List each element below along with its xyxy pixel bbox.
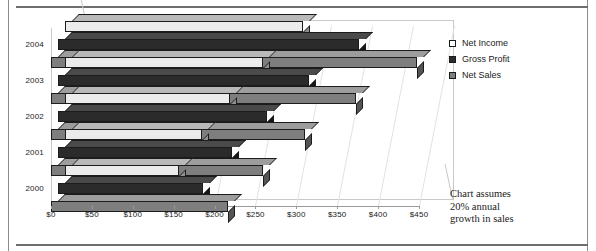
bar-net-income-2000[interactable] xyxy=(65,158,179,176)
x-axis-tick-mark xyxy=(174,206,175,209)
x-axis-tick-mark xyxy=(296,206,297,209)
bar-top-face xyxy=(72,50,277,57)
bar-top-face xyxy=(65,68,323,75)
bar-gross-profit-2000[interactable] xyxy=(58,176,203,194)
bar-gross-profit-2003[interactable] xyxy=(58,68,309,86)
bar-side-face xyxy=(263,169,270,187)
bar-front-face xyxy=(65,93,230,104)
annotation-line-2: 20% annual xyxy=(450,201,590,214)
bar-gross-profit-2004[interactable] xyxy=(58,32,359,50)
bar-top-face xyxy=(65,104,281,111)
x-axis-tick-mark xyxy=(378,206,379,209)
y-axis-tick-label: 2002 xyxy=(16,112,44,121)
bar-top-face xyxy=(65,140,246,147)
y-axis-tick-label: 2000 xyxy=(16,184,44,193)
plot-area: $0$50$100$150$200$250$300$350$400$450 xyxy=(46,20,436,216)
x-axis-tick-label: $400 xyxy=(361,210,395,219)
y-axis-tick-label: 2003 xyxy=(16,76,44,85)
bar-top-face xyxy=(65,32,373,39)
bar-net-income-2003[interactable] xyxy=(65,50,263,68)
x-axis-tick-label: $300 xyxy=(279,210,313,219)
bar-top-face xyxy=(72,158,193,165)
bar-gross-profit-2002[interactable] xyxy=(58,104,267,122)
bar-front-face xyxy=(58,39,359,50)
bar-front-face xyxy=(65,21,303,32)
x-axis-tick-mark xyxy=(51,206,52,209)
bar-front-face xyxy=(58,183,203,194)
bar-top-face xyxy=(72,122,216,129)
y-axis-tick-label: 2004 xyxy=(16,40,44,49)
bar-front-face xyxy=(65,165,179,176)
x-axis-tick-label: $250 xyxy=(238,210,272,219)
chart-panel: $0$50$100$150$200$250$300$350$400$450 20… xyxy=(16,14,580,236)
x-axis-tick-label: $150 xyxy=(157,210,191,219)
legend-label-net-income: Net Income xyxy=(462,38,508,48)
y-axis-tick-label: 2001 xyxy=(16,148,44,157)
bar-front-face xyxy=(65,57,263,68)
x-axis-tick-mark xyxy=(337,206,338,209)
x-axis-tick-label: $450 xyxy=(402,210,436,219)
legend-label-net-sales: Net Sales xyxy=(462,70,501,80)
x-axis-tick-mark xyxy=(133,206,134,209)
legend-item-gross-profit[interactable]: Gross Profit xyxy=(449,52,579,66)
x-axis-tick-label: $350 xyxy=(320,210,354,219)
bar-side-face xyxy=(305,133,312,151)
bar-top-face xyxy=(72,86,244,93)
bar-side-face xyxy=(417,61,424,79)
bar-front-face xyxy=(58,147,232,158)
page-border-left xyxy=(8,0,9,251)
bar-front-face xyxy=(58,111,267,122)
bar-front-face xyxy=(58,75,309,86)
bar-net-income-2001[interactable] xyxy=(65,122,202,140)
x-axis-tick-mark xyxy=(215,206,216,209)
x-axis-tick-label: $50 xyxy=(75,210,109,219)
legend-swatch-net-income xyxy=(449,40,456,47)
legend-label-gross-profit: Gross Profit xyxy=(462,54,510,64)
legend-swatch-gross-profit xyxy=(449,56,456,63)
page-rule-top xyxy=(16,6,588,8)
bar-front-face xyxy=(65,129,202,140)
x-axis-tick-mark xyxy=(92,206,93,209)
bar-top-face xyxy=(58,194,242,201)
chart-legend: Net Income Gross Profit Net Sales xyxy=(449,36,579,84)
x-axis-tick-label: $0 xyxy=(34,210,68,219)
bar-net-income-2002[interactable] xyxy=(65,86,230,104)
bar-net-income-2004[interactable] xyxy=(65,14,303,32)
bar-top-face xyxy=(72,14,317,21)
x-axis-tick-label: $100 xyxy=(116,210,150,219)
bar-gross-profit-2001[interactable] xyxy=(58,140,232,158)
legend-item-net-sales[interactable]: Net Sales xyxy=(449,68,579,82)
x-axis-tick-label: $200 xyxy=(198,210,232,219)
bar-top-face xyxy=(65,176,217,183)
annotation-line-1: Chart assumes xyxy=(450,188,590,201)
legend-swatch-net-sales xyxy=(449,72,456,79)
x-axis-tick-mark xyxy=(255,206,256,209)
legend-item-net-income[interactable]: Net Income xyxy=(449,36,579,50)
chart-annotation: Chart assumes 20% annual growth in sales xyxy=(450,188,590,226)
annotation-line-3: growth in sales xyxy=(450,213,590,226)
x-axis-tick-mark xyxy=(419,206,420,209)
page-rule-bottom xyxy=(16,244,588,246)
